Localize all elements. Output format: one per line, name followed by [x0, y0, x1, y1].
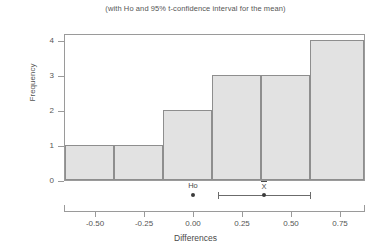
confidence-interval-lower-cap	[218, 192, 219, 199]
x-tick-mark	[95, 212, 96, 217]
y-axis-label: Frequency	[28, 43, 37, 123]
xbar-letter: X	[261, 182, 266, 191]
histogram-bar	[212, 75, 261, 180]
x-axis-left-cap	[64, 205, 65, 212]
mean-marker-dot	[262, 193, 266, 197]
histogram-bar	[261, 75, 310, 180]
x-tick-label: 0.75	[320, 219, 360, 228]
x-tick-label: 0.00	[173, 219, 213, 228]
histogram-chart: Frequency 4 3 2 1 0 Ho X -0.50 -0.25 0.0…	[0, 0, 391, 252]
histogram-bar	[114, 145, 163, 180]
x-axis-line	[64, 211, 365, 212]
x-tick-mark	[340, 212, 341, 217]
y-tick-label: 4	[40, 37, 54, 45]
y-tick-label: 1	[40, 142, 54, 150]
x-tick-label: -0.25	[124, 219, 164, 228]
ho-marker-dot	[191, 193, 195, 197]
x-axis-right-cap	[364, 205, 365, 212]
x-tick-mark	[291, 212, 292, 217]
ho-label: Ho	[163, 181, 223, 190]
xbar-label: X	[234, 181, 294, 191]
histogram-bar	[163, 110, 212, 180]
histogram-bar	[310, 40, 364, 180]
y-tick-label: 0	[40, 177, 54, 185]
y-tick-label: 3	[40, 72, 54, 80]
x-tick-label: -0.50	[75, 219, 115, 228]
x-tick-label: 0.25	[222, 219, 262, 228]
x-tick-mark	[242, 212, 243, 217]
x-tick-label: 0.50	[271, 219, 311, 228]
confidence-interval-upper-cap	[310, 192, 311, 199]
histogram-bar	[65, 145, 114, 180]
plot-area	[64, 34, 365, 181]
y-tick-mark	[58, 181, 64, 182]
xbar-glyph: X	[261, 181, 267, 191]
x-tick-mark	[193, 212, 194, 217]
x-axis-label: Differences	[0, 233, 391, 243]
y-tick-label: 2	[40, 107, 54, 115]
x-tick-mark	[144, 212, 145, 217]
